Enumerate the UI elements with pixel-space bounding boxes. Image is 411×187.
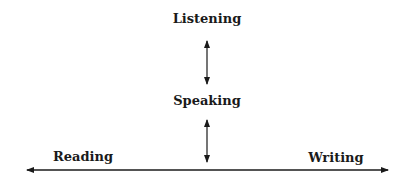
writing-label: Writing: [308, 151, 363, 164]
listening-label: Listening: [173, 12, 242, 25]
reading-label: Reading: [53, 150, 113, 163]
language-skills-diagram: Listening Speaking Reading Writing: [0, 0, 411, 187]
speaking-label: Speaking: [173, 94, 241, 107]
